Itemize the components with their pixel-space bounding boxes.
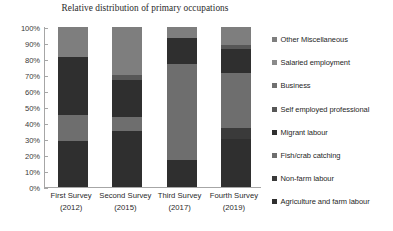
bar-column[interactable]	[112, 27, 142, 187]
y-tick-label: 60%	[25, 88, 40, 97]
y-tick-label: 0%	[29, 184, 40, 193]
x-axis-category-labels: First Survey(2012)Second Survey(2015)Thi…	[44, 190, 261, 228]
plot-area	[44, 27, 261, 188]
legend-label: Self employed professional	[281, 105, 370, 114]
bar-stack	[58, 27, 88, 187]
x-category-label: First Survey(2012)	[44, 190, 98, 213]
y-tick-label: 50%	[25, 104, 40, 113]
bar-segment[interactable]	[167, 38, 197, 64]
bar-segment[interactable]	[221, 139, 251, 187]
y-tick-label: 70%	[25, 72, 40, 81]
legend-label: Salaried employment	[281, 58, 351, 67]
bar-segment[interactable]	[167, 160, 197, 187]
bar-segment[interactable]	[112, 75, 142, 80]
bar-segment[interactable]	[167, 27, 197, 38]
y-tick-label: 20%	[25, 152, 40, 161]
bar-segment[interactable]	[112, 131, 142, 187]
bar-stack	[112, 27, 142, 187]
y-tick-label: 30%	[25, 136, 40, 145]
legend-swatch-icon	[272, 37, 277, 42]
legend-label: Migrant labour	[281, 128, 328, 137]
category-name: First Survey	[51, 191, 92, 200]
bar-segment[interactable]	[221, 27, 251, 45]
legend-swatch-icon	[272, 199, 277, 204]
legend-swatch-icon	[272, 83, 277, 88]
bar-segment[interactable]	[221, 45, 251, 50]
legend-swatch-icon	[272, 176, 277, 181]
legend-label: Non-farm labour	[281, 174, 334, 183]
y-tick-label: 80%	[25, 56, 40, 65]
category-name: Second Survey	[99, 191, 151, 200]
category-name: Third Survey	[158, 191, 202, 200]
category-year: (2012)	[44, 202, 98, 214]
bar-segment[interactable]	[167, 64, 197, 160]
legend-item[interactable]: Other Miscellaneous	[272, 35, 348, 44]
bar-segment[interactable]	[221, 73, 251, 127]
category-year: (2019)	[207, 202, 261, 214]
bar-segment[interactable]	[221, 128, 251, 139]
bar-segment[interactable]	[221, 49, 251, 73]
legend-label: Other Miscellaneous	[281, 35, 348, 44]
category-year: (2015)	[98, 202, 152, 214]
category-year: (2017)	[153, 202, 207, 214]
legend-swatch-icon	[272, 107, 277, 112]
bar-segment[interactable]	[58, 115, 88, 141]
legend-swatch-icon	[272, 130, 277, 135]
y-tick-mark	[44, 188, 48, 189]
legend-label: Fish/crab catching	[281, 151, 341, 160]
bar-column[interactable]	[221, 27, 251, 187]
legend-swatch-icon	[272, 60, 277, 65]
legend-item[interactable]: Salaried employment	[272, 58, 350, 67]
bar-stack	[167, 27, 197, 187]
y-tick-label: 10%	[25, 168, 40, 177]
y-tick-label: 40%	[25, 120, 40, 129]
bar-segment[interactable]	[112, 80, 142, 117]
bar-segment[interactable]	[58, 27, 88, 57]
legend-swatch-icon	[272, 153, 277, 158]
bar-segment[interactable]	[58, 141, 88, 187]
bar-column[interactable]	[58, 27, 88, 187]
bar-column[interactable]	[167, 27, 197, 187]
legend-label: Business	[281, 81, 311, 90]
bar-segment[interactable]	[58, 57, 88, 115]
bar-stack	[221, 27, 251, 187]
legend-item[interactable]: Non-farm labour	[272, 174, 334, 183]
chart-container: Relative distribution of primary occupat…	[0, 0, 393, 231]
chart-title: Relative distribution of primary occupat…	[0, 3, 290, 13]
y-tick-label: 90%	[25, 40, 40, 49]
chart-legend: Other MiscellaneousSalaried employmentBu…	[272, 35, 393, 225]
legend-item[interactable]: Migrant labour	[272, 128, 328, 137]
bar-segment[interactable]	[112, 27, 142, 75]
legend-item[interactable]: Self employed professional	[272, 105, 369, 114]
x-category-label: Third Survey(2017)	[153, 190, 207, 213]
legend-item[interactable]: Business	[272, 81, 311, 90]
x-category-label: Second Survey(2015)	[98, 190, 152, 213]
bars-layer	[44, 27, 261, 188]
legend-item[interactable]: Agriculture and farm labour	[272, 197, 370, 206]
y-axis: 0%10%20%30%40%50%60%70%80%90%100%	[10, 27, 40, 188]
x-category-label: Fourth Survey(2019)	[207, 190, 261, 213]
y-tick-label: 100%	[21, 24, 40, 33]
legend-label: Agriculture and farm labour	[281, 197, 370, 206]
category-name: Fourth Survey	[210, 191, 258, 200]
legend-item[interactable]: Fish/crab catching	[272, 151, 340, 160]
bar-segment[interactable]	[112, 117, 142, 131]
